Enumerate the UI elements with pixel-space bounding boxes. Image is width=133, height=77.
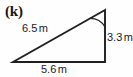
vertical-side-unit: m xyxy=(124,31,133,43)
figure-item-label: (k) xyxy=(5,4,23,19)
triangle-figure: (k) 6.5m 3.3m 5.6m xyxy=(0,0,133,77)
vertical-side-length-label: 3.3m xyxy=(107,32,133,43)
base-value: 5.6 xyxy=(41,63,56,75)
base-length-label: 5.6m xyxy=(41,64,67,75)
angle-arc-icon xyxy=(90,18,105,27)
hypotenuse-unit: m xyxy=(39,22,48,34)
hypotenuse-length-label: 6.5m xyxy=(22,23,48,34)
base-unit: m xyxy=(58,63,67,75)
hypotenuse-value: 6.5 xyxy=(22,22,37,34)
vertical-side-value: 3.3 xyxy=(107,31,122,43)
